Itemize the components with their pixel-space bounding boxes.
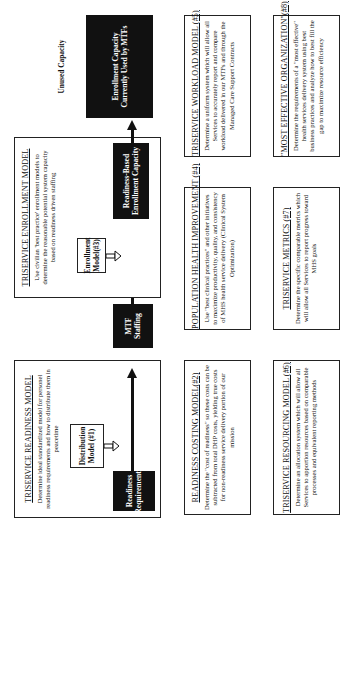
readiness-model-title: TRISERVICE READINESS MODEL — [24, 361, 33, 517]
workload-model-box: TRISERVICE WORKLOAD MODEL (#5) Determine… — [184, 15, 251, 157]
box-title: TRISERVICE WORKLOAD MODEL (#5) — [191, 16, 200, 156]
flow-arrow-1 — [131, 375, 134, 471]
arrowhead-icon — [127, 368, 137, 378]
readiness-based-enrollment-capacity-box: Readiness-Based Enrollment Capacity — [113, 143, 149, 219]
box-description: Determine the requirements of a "most ef… — [292, 16, 325, 156]
metrics-box: TRISERVICE METRICS (#7) Determine the sp… — [273, 187, 340, 330]
diagram-page: TRISERVICE READINESS MODEL Determine ide… — [0, 0, 351, 698]
enrollment-model-title: TRISERVICE ENROLLMENT MODEL — [21, 138, 30, 297]
box-description: Determine an allocation system which wil… — [294, 361, 319, 514]
distribution-model-box: Distribution Model (#1) — [70, 424, 104, 468]
enrollment-capacity-used: Enrollment Capacity Currently Used by MT… — [86, 15, 153, 118]
box-title: "MOST EFFECTIVE ORGANIZATION"(#8) — [280, 16, 289, 156]
box-description: Determine a uniform system which will al… — [203, 16, 236, 156]
readiness-costing-model-box: READINESS COSTING MODEL(#2) Determine th… — [184, 360, 251, 515]
hollow-arrow-down-icon — [106, 250, 122, 262]
arrowhead-icon — [127, 120, 137, 130]
box-title: TRISERVICE RESOURCING MODEL (#6) — [282, 361, 291, 514]
capacity-box: Unused Capacity Enrollment Capacity Curr… — [36, 15, 153, 118]
unused-capacity: Unused Capacity — [36, 15, 86, 118]
box-description: Determine the specific comparable metric… — [294, 188, 319, 329]
readiness-model-description: Determine ideal standardized model for p… — [36, 361, 61, 517]
hollow-arrow-down-icon — [104, 440, 120, 452]
population-health-box: POPULATION HEALTH IMPROVEMENT (#4) Use "… — [184, 187, 251, 330]
box-title: POPULATION HEALTH IMPROVEMENT (#4) — [191, 188, 200, 329]
box-title: READINESS COSTING MODEL(#2) — [191, 361, 200, 514]
most-effective-organization-box: "MOST EFFECTIVE ORGANIZATION"(#8) Determ… — [273, 15, 340, 157]
box-description: Determine the "cost of readiness" so the… — [203, 361, 236, 514]
box-title: TRISERVICE METRICS (#7) — [282, 188, 291, 329]
enrollment-model-description: Use civilian 'best practice' enrollment … — [33, 138, 58, 297]
enrollment-model-sub-box: Enrollment Model(#3) — [77, 238, 106, 273]
box-description: Use "best clinical practices" and other … — [203, 188, 236, 329]
readiness-requirements-box: Readiness Requirements — [113, 471, 155, 511]
resourcing-model-box: TRISERVICE RESOURCING MODEL (#6) Determi… — [273, 360, 340, 515]
mtf-staffing-box: MTF Staffing — [113, 304, 153, 348]
